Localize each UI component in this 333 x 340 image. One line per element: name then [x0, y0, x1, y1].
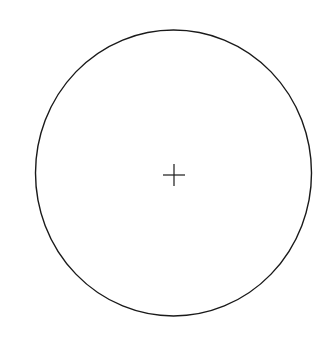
diagram-canvas [0, 0, 333, 340]
background [0, 0, 333, 340]
